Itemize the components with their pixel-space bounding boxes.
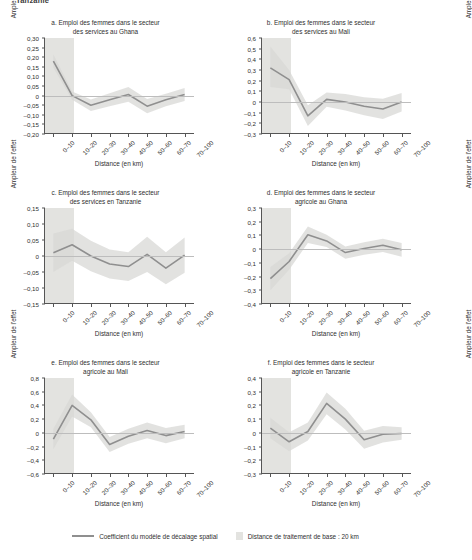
figure-panel-grid: a. Emploi des femmes dans le secteur des… bbox=[0, 14, 431, 528]
chart-panel-f: f. Emploi des femmes dans le secteur agr… bbox=[215, 354, 431, 528]
y-tick-label: –0,10 bbox=[24, 111, 39, 118]
y-tick-label: –0,20 bbox=[24, 131, 39, 138]
x-tick-label: 0–10 bbox=[278, 139, 293, 154]
plot-area-f bbox=[261, 378, 411, 474]
x-tick-label: 70–100 bbox=[195, 139, 215, 159]
x-tick-mark bbox=[289, 304, 290, 307]
y-tick-label: –0,3 bbox=[244, 287, 256, 294]
chart-panel-e: e. Emploi des femmes dans le secteur agr… bbox=[0, 354, 215, 528]
chart-title-c: c. Emploi des femmes dans le secteur des… bbox=[0, 188, 211, 206]
plot-area-b bbox=[261, 38, 411, 134]
x-tick-mark bbox=[308, 134, 309, 137]
chart-panel-b: b. Emploi des femmes dans le secteur des… bbox=[215, 14, 431, 184]
zero-reference-line bbox=[261, 102, 411, 103]
plot-area-e bbox=[44, 378, 194, 474]
y-tick-label: –0,3 bbox=[244, 471, 256, 478]
x-tick-label: 60–70 bbox=[392, 479, 409, 496]
x-tick-label: 10–20 bbox=[81, 479, 98, 496]
x-tick-label: 50–60 bbox=[373, 479, 390, 496]
chart-title-c-line1: c. Emploi des femmes dans le secteur bbox=[52, 189, 160, 196]
y-tick-label: –0,1 bbox=[244, 259, 256, 266]
y-axis-line bbox=[44, 378, 45, 474]
x-tick-mark bbox=[402, 134, 403, 137]
y-axis-title-d: Ampleur de l'effet bbox=[465, 118, 472, 210]
confidence-band bbox=[53, 394, 184, 452]
x-tick-label: 40–50 bbox=[354, 309, 371, 326]
series-svg bbox=[261, 38, 411, 134]
x-tick-mark bbox=[364, 304, 365, 307]
x-tick-mark bbox=[72, 134, 73, 137]
y-axis-line bbox=[261, 38, 262, 134]
legend-label-treatment-distance: Distance de traitement de base : 20 km bbox=[248, 533, 359, 540]
y-tick-label: –0,4 bbox=[27, 457, 39, 464]
y-tick-label: –0,05 bbox=[24, 269, 39, 276]
x-tick-mark bbox=[327, 134, 328, 137]
x-tick-label: 20–30 bbox=[100, 309, 117, 326]
y-tick-label: 0,3 bbox=[247, 67, 256, 74]
y-tick-label: 0,10 bbox=[27, 221, 39, 228]
y-axis-title-c: Ampleur de l'effet bbox=[10, 118, 17, 210]
zero-reference-line bbox=[261, 249, 411, 250]
x-tick-label: 50–60 bbox=[156, 139, 173, 156]
x-tick-mark bbox=[72, 304, 73, 307]
y-tick-label: 0,2 bbox=[30, 416, 39, 423]
x-tick-label: 0–10 bbox=[61, 309, 76, 324]
y-tick-label: 0 bbox=[253, 429, 256, 436]
y-tick-label: 0,05 bbox=[27, 237, 39, 244]
x-tick-mark bbox=[270, 134, 271, 137]
x-tick-label: 30–40 bbox=[119, 479, 136, 496]
y-tick-label: 0,15 bbox=[27, 63, 39, 70]
y-tick-label: 0,1 bbox=[247, 88, 256, 95]
x-tick-mark bbox=[185, 134, 186, 137]
x-tick-mark bbox=[166, 134, 167, 137]
y-tick-label: –0,1 bbox=[244, 109, 256, 116]
x-tick-label: 70–100 bbox=[412, 309, 432, 329]
confidence-band bbox=[270, 227, 401, 291]
x-tick-mark bbox=[308, 304, 309, 307]
y-tick-label: 0,20 bbox=[27, 54, 39, 61]
x-tick-label: 50–60 bbox=[373, 309, 390, 326]
y-tick-label: 0 bbox=[36, 253, 39, 260]
y-tick-label: 0,6 bbox=[30, 388, 39, 395]
chart-title-e-line1: e. Emploi des femmes dans le secteur bbox=[51, 359, 159, 366]
x-tick-label: 50–60 bbox=[373, 139, 390, 156]
legend-item-coefficient: Coefficient du modèle de décalage spatia… bbox=[72, 533, 218, 540]
y-axis-ticks-a: 0,300,250,200,150,100,050–0,05–0,10–0,15… bbox=[16, 38, 42, 134]
confidence-band bbox=[53, 54, 184, 113]
y-tick-label: 0 bbox=[253, 99, 256, 106]
y-tick-label: 0 bbox=[253, 246, 256, 253]
y-tick-label: 0,6 bbox=[247, 35, 256, 42]
y-tick-label: 0,2 bbox=[247, 402, 256, 409]
x-tick-mark bbox=[91, 134, 92, 137]
y-axis-line bbox=[44, 208, 45, 304]
y-tick-label: 0,4 bbox=[247, 56, 256, 63]
y-axis-ticks-c: 0,150,100,050–0,05–0,10–0,15 bbox=[16, 208, 42, 304]
chart-title-d-line2: agricole au Ghana bbox=[295, 198, 347, 205]
x-tick-label: 30–40 bbox=[336, 139, 353, 156]
legend-line-swatch-icon bbox=[72, 535, 94, 537]
x-tick-label: 40–50 bbox=[354, 479, 371, 496]
x-tick-mark bbox=[128, 304, 129, 307]
x-tick-mark bbox=[383, 134, 384, 137]
x-tick-label: 40–50 bbox=[137, 309, 154, 326]
y-tick-label: –0,4 bbox=[244, 301, 256, 308]
x-axis-title-b: Distance (en km) bbox=[261, 160, 411, 167]
series-svg bbox=[261, 378, 411, 474]
x-tick-mark bbox=[53, 304, 54, 307]
y-tick-label: –0,2 bbox=[244, 457, 256, 464]
x-tick-mark bbox=[185, 304, 186, 307]
y-axis-ticks-e: 0,80,60,40,20–0,2–0,4–0,6 bbox=[16, 378, 42, 474]
x-tick-mark bbox=[110, 304, 111, 307]
zero-reference-line bbox=[44, 433, 194, 434]
x-tick-mark bbox=[72, 474, 73, 477]
x-tick-mark bbox=[128, 134, 129, 137]
y-tick-label: 0 bbox=[36, 429, 39, 436]
chart-title-e-line2: agricole au Mali bbox=[83, 368, 128, 375]
series-svg bbox=[44, 38, 194, 134]
y-axis-ticks-d: 0,30,20,10–0,1–0,2–0,3–0,4 bbox=[233, 208, 259, 304]
chart-title-e: e. Emploi des femmes dans le secteur agr… bbox=[0, 358, 211, 376]
x-tick-label: 20–30 bbox=[317, 479, 334, 496]
x-axis-title-a: Distance (en km) bbox=[44, 160, 194, 167]
x-axis-title-c: Distance (en km) bbox=[44, 330, 194, 337]
chart-title-a-line1: a. Emploi des femmes dans le secteur bbox=[51, 19, 159, 26]
